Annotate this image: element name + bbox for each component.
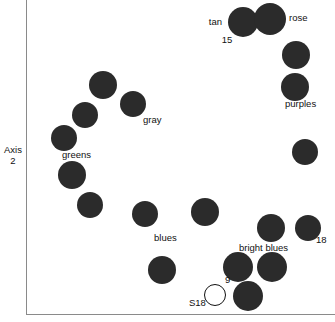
point-label: gray [143,115,161,125]
data-point [257,214,285,242]
point-label: greens [62,150,91,160]
data-point [89,71,117,99]
point-label: rose [289,13,307,23]
point-label: S18 [189,298,206,308]
point-label: purples [285,99,316,109]
y-axis-line [26,0,27,315]
data-point [282,41,310,69]
y-axis-title-line1: Axis [0,144,26,155]
data-point [292,139,318,165]
point-label: tan [0,17,222,27]
x-axis-line [26,314,335,315]
data-point [77,192,103,218]
data-point [148,256,176,284]
data-point [233,281,263,311]
point-label: bright blues [239,243,288,253]
point-label: 15 [207,35,247,45]
data-point [132,201,158,227]
point-label: 18 [316,235,327,245]
scatter-plot: Axis 2 tan15rosepurplesgraygreensbluesbr… [0,0,335,322]
data-point [254,3,286,35]
point-label: 9 [225,275,230,285]
y-axis-title: Axis 2 [0,144,26,166]
y-axis-title-line2: 2 [0,155,26,166]
data-point [58,161,86,189]
data-point [191,198,219,226]
data-point [281,73,309,101]
data-point [72,102,98,128]
data-point-open [204,284,226,306]
point-label: blues [154,233,177,243]
data-point [51,125,77,151]
data-point [257,252,287,282]
